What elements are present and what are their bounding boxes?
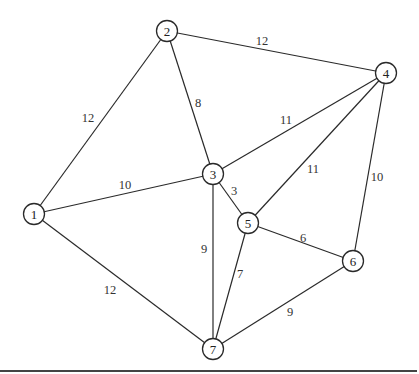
edge-3-4	[213, 73, 386, 174]
edge-2-4	[167, 31, 386, 73]
node-label: 1	[31, 207, 38, 222]
weighted-graph-diagram: 12128101111103697129 1234567	[0, 0, 419, 374]
nodes-group: 1234567	[24, 21, 397, 360]
edge-weight-2-4: 12	[256, 34, 269, 48]
node-6: 6	[343, 251, 364, 272]
edge-4-6	[353, 73, 386, 261]
edges-group	[34, 31, 386, 349]
edge-weight-6-7: 9	[287, 305, 293, 319]
edge-weight-3-7: 9	[201, 242, 207, 256]
node-label: 6	[350, 254, 357, 269]
edge-weight-3-5: 3	[231, 184, 237, 198]
edge-weight-4-5: 11	[307, 162, 319, 176]
edge-weight-5-7: 7	[237, 267, 243, 281]
edge-weights-group: 12128101111103697129	[82, 34, 384, 319]
node-1: 1	[24, 204, 45, 225]
node-4: 4	[376, 63, 397, 84]
node-label: 5	[245, 216, 252, 231]
node-label: 4	[383, 66, 390, 81]
node-label: 7	[210, 342, 217, 357]
edge-1-7	[34, 214, 213, 349]
node-3: 3	[203, 164, 224, 185]
node-7: 7	[203, 339, 224, 360]
edge-1-2	[34, 31, 167, 214]
edge-weight-1-3: 10	[119, 178, 132, 192]
node-5: 5	[238, 213, 259, 234]
edge-weight-2-3: 8	[195, 96, 201, 110]
node-label: 2	[164, 24, 171, 39]
edge-weight-1-2: 12	[82, 111, 95, 125]
edge-weight-5-6: 6	[300, 231, 306, 245]
edge-weight-3-4: 11	[280, 113, 292, 127]
node-label: 3	[210, 167, 217, 182]
node-2: 2	[157, 21, 178, 42]
edge-4-5	[248, 73, 386, 223]
edge-weight-1-7: 12	[104, 283, 117, 297]
edge-2-3	[167, 31, 213, 174]
edge-weight-4-6: 10	[371, 170, 384, 184]
